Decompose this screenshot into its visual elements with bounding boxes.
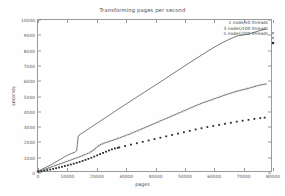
legend-marker-cross-icon: [266, 26, 280, 31]
series-3: [38, 117, 266, 173]
series-1: [37, 29, 266, 172]
legend-marker-plus-icon: [266, 20, 280, 25]
x-axis-label: pages: [0, 182, 285, 187]
legend-marker-star-icon: [266, 31, 280, 36]
y-axis-label: seconds: [11, 86, 16, 106]
chart-container: Transforming pages per second 0100020003…: [0, 0, 285, 196]
legend-item-3: 5 nodes/200 threads: [188, 31, 268, 36]
legend-label: 5 nodes/200 threads: [224, 31, 268, 36]
chart-legend: 1 node/50 threads3 nodes/100 threads5 no…: [188, 20, 268, 36]
series-2: [36, 84, 266, 173]
